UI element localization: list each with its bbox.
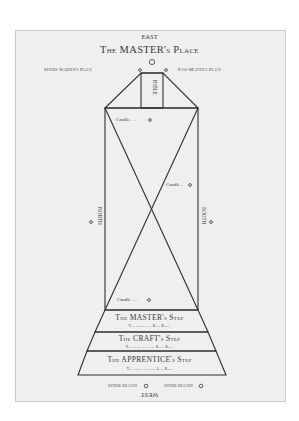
south-label: SOUTH — [201, 207, 207, 225]
south-position-icon — [210, 221, 213, 224]
candle-1-label: Candle . . . — [116, 117, 137, 122]
candle-1-icon — [149, 119, 152, 122]
candle-2-icon — [189, 184, 192, 187]
apprentice-step-title: The APPRENTICE's Step — [0, 355, 299, 364]
master-step-title: The MASTER's Step — [0, 313, 299, 322]
junior-deacon-position-icon — [199, 384, 203, 388]
senior-warden-position-icon — [139, 69, 142, 72]
candle-3-icon — [148, 299, 151, 302]
apprentice-step-subtitle: You kneel with the Left Knee — [0, 367, 299, 371]
senior-deacon-position-icon — [144, 384, 148, 388]
master-step-subtitle: You kneel with Both Knees — [0, 324, 299, 328]
senior-deacon-label: Senior Deacon — [108, 384, 137, 388]
past-master-position-icon — [165, 69, 168, 72]
candle-3-label: Candle . . . — [117, 297, 138, 302]
craft-step-title: The CRAFT's Step — [0, 334, 299, 343]
north-label: NORTH — [97, 207, 103, 225]
bible-label: BIBLE — [152, 80, 158, 95]
craft-step-subtitle: You kneel with the Right Knee — [0, 345, 299, 349]
master-place-label: The MASTER's Place — [0, 44, 299, 55]
past-master-place-label: Pass-Master's Place — [178, 67, 221, 72]
east-label: EAST — [0, 33, 299, 40]
senior-warden-place-label: Senior Warden's Place — [44, 67, 92, 72]
candle-2-label: Candle . — [166, 182, 182, 187]
west-label: WEST — [0, 392, 299, 399]
north-position-icon — [90, 221, 93, 224]
master-position-icon — [149, 59, 154, 64]
junior-deacon-label: Junior Deacon — [164, 384, 193, 388]
